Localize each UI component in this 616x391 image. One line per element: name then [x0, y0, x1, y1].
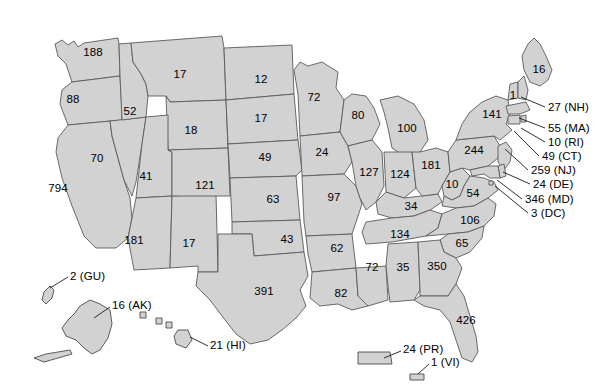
- state-shape-nh: [518, 76, 528, 100]
- state-value-label-co: 121: [195, 179, 215, 191]
- state-value-label-or: 88: [67, 93, 80, 105]
- leader-line-hi: [190, 337, 208, 346]
- leader-line-vi: [418, 364, 429, 374]
- inset-label-ak: 16 (AK): [112, 299, 152, 311]
- leader-line-ct: [514, 131, 539, 156]
- callout-label-md: 346 (MD): [525, 193, 574, 205]
- state-value-label-va: 54: [467, 187, 480, 199]
- state-value-label-pa: 244: [464, 144, 484, 156]
- inset-shape-gu: [42, 286, 54, 304]
- state-shape-ma: [506, 102, 530, 114]
- inset-shape-ak: [62, 300, 112, 354]
- state-shape-wy: [166, 96, 228, 150]
- state-value-label-mi: 100: [397, 122, 417, 134]
- state-value-label-mn: 72: [308, 91, 321, 103]
- state-shape-wa: [55, 38, 120, 82]
- state-value-label-ar: 62: [331, 242, 344, 254]
- inset-label-gu: 2 (GU): [70, 270, 105, 282]
- state-value-label-ca: 794: [48, 182, 68, 194]
- state-value-label-nv: 70: [91, 152, 104, 164]
- state-value-label-ga: 350: [427, 260, 447, 272]
- state-shape-ct: [508, 115, 520, 124]
- state-value-label-ny: 141: [482, 108, 502, 120]
- leader-line-ma: [519, 118, 545, 128]
- callout-label-nj: 259 (NJ): [531, 164, 576, 176]
- state-shape-mo: [302, 174, 362, 236]
- state-value-label-me: 16: [533, 63, 546, 75]
- state-value-label-wa: 188: [83, 46, 103, 58]
- inset-shape-pr: [358, 352, 392, 364]
- state-value-label-ms: 72: [366, 261, 379, 273]
- state-value-label-nc: 106: [460, 214, 480, 226]
- state-value-label-in: 124: [390, 168, 410, 180]
- leader-line-dc: [495, 186, 528, 213]
- state-value-label-mo: 97: [328, 191, 341, 203]
- state-value-label-fl: 426: [456, 314, 476, 326]
- state-value-label-wy: 18: [185, 124, 198, 136]
- inset-shape-vi: [410, 374, 424, 380]
- callout-label-nh: 27 (NH): [548, 101, 589, 113]
- state-value-label-il: 127: [359, 166, 379, 178]
- state-shape-az: [128, 196, 172, 270]
- state-value-label-ia: 24: [316, 146, 329, 158]
- callout-label-ct: 49 (CT): [542, 150, 582, 162]
- callout-label-ri: 10 (RI): [548, 136, 584, 148]
- state-value-label-tx: 391: [254, 285, 274, 297]
- leader-line-gu: [50, 277, 68, 288]
- inset-shape-hi-islands: [140, 312, 172, 328]
- state-value-label-vt: 1: [510, 89, 517, 101]
- state-value-label-wv: 10: [446, 178, 459, 190]
- state-value-label-al: 35: [397, 261, 410, 273]
- leader-line-de: [503, 172, 530, 184]
- state-shape-dc: [489, 181, 493, 185]
- state-value-label-oh: 181: [421, 159, 441, 171]
- state-value-label-ks: 63: [267, 193, 280, 205]
- state-shapes-group: [55, 36, 552, 362]
- leader-line-ri: [521, 128, 545, 142]
- state-value-label-sd: 17: [255, 112, 268, 124]
- leader-line-md: [497, 180, 522, 199]
- inset-label-pr: 24 (PR): [403, 343, 443, 355]
- state-value-label-ky: 34: [405, 200, 418, 212]
- state-value-label-ok: 43: [281, 233, 294, 245]
- state-shape-me: [522, 38, 552, 86]
- state-value-label-id: 52: [124, 105, 137, 117]
- state-value-label-ut: 41: [140, 170, 153, 182]
- us-choropleth-map-figure: 1888879470521718411811712112174963433917…: [0, 0, 616, 391]
- state-value-label-tn: 134: [390, 228, 410, 240]
- state-value-label-sc: 65: [456, 237, 469, 249]
- callout-label-ma: 55 (MA): [548, 122, 590, 134]
- state-value-label-nm: 17: [183, 237, 196, 249]
- state-shape-nm: [170, 194, 218, 272]
- state-shape-ks: [230, 176, 300, 222]
- state-shape-ri: [521, 115, 526, 122]
- state-value-label-mt: 17: [174, 68, 187, 80]
- state-value-label-nd: 12: [255, 73, 268, 85]
- state-value-label-la: 82: [335, 287, 348, 299]
- map-canvas: [0, 0, 616, 391]
- callout-label-dc: 3 (DC): [531, 207, 565, 219]
- callout-label-de: 24 (DE): [533, 178, 573, 190]
- inset-shape-ak-aleutians: [34, 350, 72, 362]
- inset-shape-hi-main: [174, 330, 192, 348]
- inset-label-vi: 1 (VI): [431, 356, 460, 368]
- state-value-label-ne: 49: [259, 151, 272, 163]
- state-value-label-az: 181: [124, 234, 144, 246]
- state-value-label-wi: 80: [352, 109, 365, 121]
- inset-label-hi: 21 (HI): [210, 339, 246, 351]
